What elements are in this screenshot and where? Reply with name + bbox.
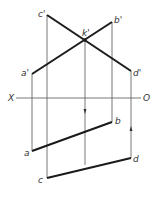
arrow-up-icon <box>130 126 133 131</box>
axis-label-x: X <box>7 93 15 103</box>
intersection-point <box>83 38 87 42</box>
label-k-prime: k' <box>82 28 90 38</box>
label-d: d <box>133 154 139 164</box>
label-c-prime: c' <box>38 9 45 19</box>
line-a-b-top <box>32 122 112 151</box>
projection-diagram: c' b' k' a' d' X O b a d c <box>0 0 155 197</box>
arrow-down-icon <box>84 109 87 114</box>
label-a: a <box>24 148 30 158</box>
line-a-b-front <box>32 22 112 74</box>
axis-label-o: O <box>143 93 150 103</box>
label-b: b <box>115 116 121 126</box>
line-c-d-top <box>47 158 131 178</box>
label-c: c <box>38 175 43 185</box>
projection-lines <box>16 15 141 178</box>
label-b-prime: b' <box>114 15 122 25</box>
label-d-prime: d' <box>133 68 141 78</box>
label-a-prime: a' <box>21 68 29 78</box>
